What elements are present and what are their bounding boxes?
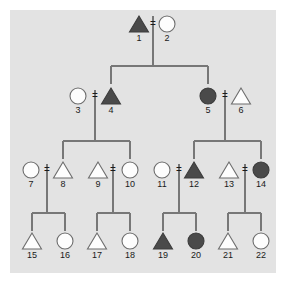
individual-label-14: 14 [256, 179, 266, 189]
individual-label-17: 17 [92, 250, 102, 260]
individual-symbol-9 [89, 162, 108, 178]
individual-label-3: 3 [75, 105, 80, 115]
individual-label-11: 11 [157, 179, 166, 189]
individual-label-2: 2 [164, 33, 169, 43]
individual-symbol-6 [232, 88, 251, 104]
equals-sign-9-10: = [110, 164, 116, 175]
pedigree-diagram: = = = = = = = 12345678910111213141516171… [0, 0, 286, 283]
equals-sign-7-8: = [44, 164, 50, 175]
individual-symbol-7 [23, 162, 39, 178]
pedigree-chart: = = = = = = = 12345678910111213141516171… [0, 0, 286, 283]
individual-symbol-2 [159, 16, 175, 32]
equals-sign-1-2: = [150, 18, 156, 29]
equals-sign-11-12: = [176, 164, 182, 175]
individual-symbol-15 [23, 233, 42, 249]
individual-symbol-18 [122, 233, 138, 249]
individual-symbol-19 [154, 233, 173, 249]
individual-symbol-5 [200, 88, 216, 104]
equals-sign-5-6: = [222, 90, 228, 101]
individual-label-10: 10 [125, 179, 135, 189]
equals-sign-13-14: = [242, 164, 248, 175]
individual-label-19: 19 [158, 250, 168, 260]
individual-symbol-3 [70, 88, 86, 104]
individual-symbol-10 [122, 162, 138, 178]
individual-label-8: 8 [60, 179, 65, 189]
individual-label-18: 18 [125, 250, 135, 260]
individual-symbol-16 [57, 233, 73, 249]
individual-symbol-12 [185, 162, 204, 178]
individual-symbol-20 [188, 233, 204, 249]
equals-sign-3-4: = [92, 90, 98, 101]
individual-label-1: 1 [136, 33, 141, 43]
individual-symbol-4 [102, 88, 121, 104]
individual-symbol-14 [253, 162, 269, 178]
individual-label-22: 22 [256, 250, 266, 260]
individual-symbol-8 [54, 162, 73, 178]
individual-label-12: 12 [189, 179, 199, 189]
individual-label-20: 20 [191, 250, 201, 260]
individual-symbol-13 [220, 162, 239, 178]
individual-label-21: 21 [223, 250, 233, 260]
individual-label-9: 9 [95, 179, 100, 189]
individual-label-5: 5 [205, 105, 210, 115]
pedigree-connectors [32, 16, 261, 231]
individual-label-15: 15 [27, 250, 37, 260]
individual-symbol-21 [219, 233, 238, 249]
individual-symbol-17 [88, 233, 107, 249]
individual-symbol-11 [154, 162, 170, 178]
individual-symbol-22 [253, 233, 269, 249]
individual-label-7: 7 [28, 179, 33, 189]
individual-label-13: 13 [224, 179, 234, 189]
individual-label-6: 6 [238, 105, 243, 115]
individual-label-16: 16 [60, 250, 70, 260]
individual-label-4: 4 [108, 105, 113, 115]
pedigree-symbols [23, 16, 270, 249]
individual-symbol-1 [130, 16, 149, 32]
